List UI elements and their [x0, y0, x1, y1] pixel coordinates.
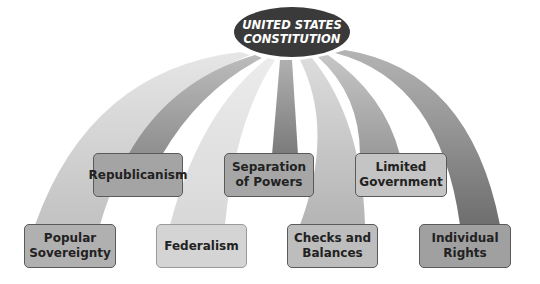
title-line2: CONSTITUTION — [242, 32, 342, 46]
box-separation-of-powers: Separation of Powers — [224, 153, 314, 197]
box-republicanism: Republicanism — [93, 153, 183, 197]
constitution-title: UNITED STATES CONSTITUTION — [234, 7, 350, 57]
title-line1: UNITED STATES — [242, 18, 342, 32]
box-limited-government: Limited Government — [355, 153, 447, 197]
box-individual-rights: Individual Rights — [419, 224, 511, 268]
box-federalism: Federalism — [156, 224, 247, 268]
box-checks-and-balances: Checks and Balances — [287, 224, 378, 268]
box-popular-sovereignty: Popular Sovereignty — [24, 224, 116, 268]
